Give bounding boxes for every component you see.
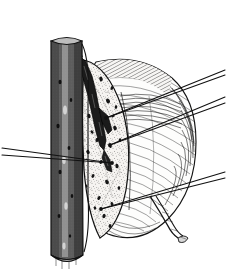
botanical-section-illustration: [0, 0, 227, 274]
figure-container: Longitudinal section of a stem gall: [0, 0, 227, 274]
woody-stem: [48, 38, 88, 270]
leader-dot-3: [104, 116, 108, 120]
leader-dot-7: [99, 207, 103, 211]
leader-dot-1: [110, 161, 114, 165]
leader-dot-5: [108, 143, 112, 147]
